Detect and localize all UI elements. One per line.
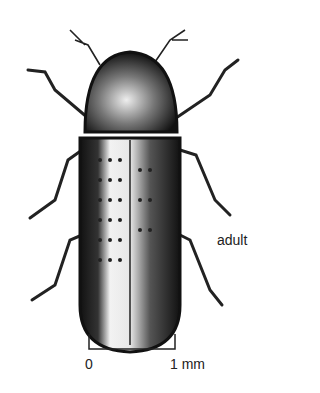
scale-start-label: 0 <box>85 356 93 372</box>
scale-end-label: 1 mm <box>170 356 205 372</box>
stage-label: adult <box>217 232 247 248</box>
